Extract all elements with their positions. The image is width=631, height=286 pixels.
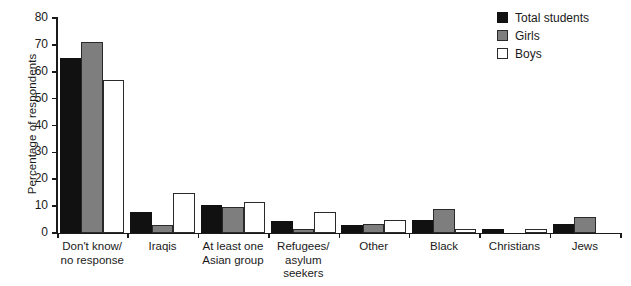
y-tick-label: 30 xyxy=(35,144,48,158)
bar-group xyxy=(130,18,195,233)
x-axis-category-label: Jews xyxy=(538,240,631,254)
bar xyxy=(60,58,82,233)
bar xyxy=(293,229,315,233)
bar xyxy=(201,205,223,233)
y-tick-label: 40 xyxy=(35,118,48,132)
bar xyxy=(103,80,125,233)
bar-group xyxy=(201,18,266,233)
legend-label: Girls xyxy=(515,29,540,43)
bar xyxy=(433,209,455,233)
bar-chart: Percentage of respondents 01020304050607… xyxy=(0,0,631,286)
bar xyxy=(271,221,293,233)
y-tick-label: 60 xyxy=(35,64,48,78)
bar xyxy=(244,202,266,233)
y-tick-label: 70 xyxy=(35,37,48,51)
legend-label: Total students xyxy=(515,11,589,25)
bar xyxy=(130,212,152,234)
bar xyxy=(574,217,596,233)
y-tick-label: 10 xyxy=(35,198,48,212)
x-tick-mark xyxy=(198,233,200,238)
bar-group xyxy=(60,18,125,233)
bar xyxy=(314,212,336,234)
bar-group xyxy=(341,18,406,233)
legend-swatch-total xyxy=(497,12,508,23)
legend-swatch-girls xyxy=(497,30,508,41)
x-tick-mark xyxy=(339,233,341,238)
bar xyxy=(222,207,244,233)
y-tick-label: 50 xyxy=(35,91,48,105)
bar xyxy=(81,42,103,233)
bar xyxy=(412,220,434,233)
x-tick-mark xyxy=(57,233,59,238)
legend-label: Boys xyxy=(515,47,542,61)
legend-swatch-boys xyxy=(497,48,508,59)
x-tick-mark xyxy=(550,233,552,238)
bar xyxy=(173,193,195,233)
x-tick-mark xyxy=(127,233,129,238)
bar xyxy=(455,229,477,233)
x-tick-mark xyxy=(268,233,270,238)
category-label-line: Jews xyxy=(538,240,631,254)
y-tick-label: 80 xyxy=(35,10,48,24)
image-top-edge-artifact xyxy=(0,0,631,3)
bar xyxy=(525,229,547,233)
bar xyxy=(384,220,406,233)
y-tick-label: 20 xyxy=(35,171,48,185)
bar xyxy=(482,229,504,233)
category-label-line: asylum xyxy=(256,254,350,268)
bar xyxy=(341,225,363,233)
x-tick-mark xyxy=(479,233,481,238)
legend-item: Boys xyxy=(497,45,627,62)
chart-legend: Total studentsGirlsBoys xyxy=(497,9,627,63)
bar-group xyxy=(412,18,477,233)
legend-item: Girls xyxy=(497,27,627,44)
bar xyxy=(363,224,385,233)
bar-group xyxy=(271,18,336,233)
x-tick-mark xyxy=(409,233,411,238)
legend-item: Total students xyxy=(497,9,627,26)
x-tick-mark xyxy=(620,233,622,238)
y-tick-label: 0 xyxy=(41,225,48,239)
bar xyxy=(553,224,575,233)
bar xyxy=(152,225,174,233)
category-label-line: seekers xyxy=(256,267,350,281)
category-label-line: no response xyxy=(45,254,139,268)
